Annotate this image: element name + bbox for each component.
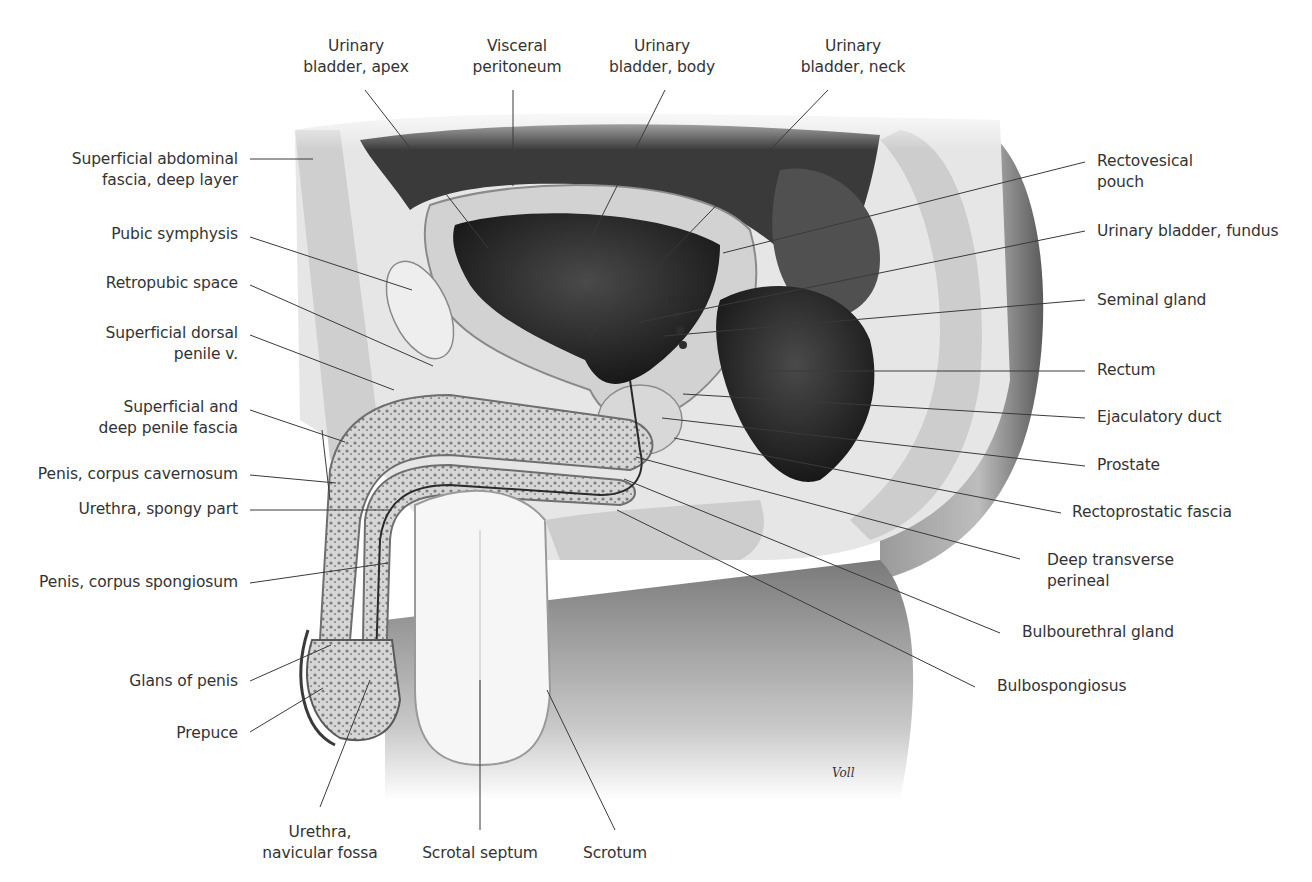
label-line: Urinary bladder, fundus xyxy=(1097,221,1278,242)
label-line: Penis, corpus cavernosum xyxy=(0,464,238,485)
label-line: perineal xyxy=(1047,571,1174,592)
label-line: Superficial and xyxy=(0,397,238,418)
label-bladder-neck: Urinary bladder, neck xyxy=(783,36,923,78)
label-line: Urethra, xyxy=(245,822,395,843)
label-urethra-spongy: Urethra, spongy part xyxy=(0,499,238,520)
label-line: bladder, body xyxy=(592,57,732,78)
label-bladder-body: Urinary bladder, body xyxy=(592,36,732,78)
label-corpus-spongiosum: Penis, corpus spongiosum xyxy=(0,572,238,593)
label-prepuce: Prepuce xyxy=(0,723,238,744)
label-retropubic-space: Retropubic space xyxy=(0,273,238,294)
label-line: bladder, neck xyxy=(783,57,923,78)
label-seminal-gland: Seminal gland xyxy=(1097,290,1206,311)
label-prostate: Prostate xyxy=(1097,455,1160,476)
label-line: Prostate xyxy=(1097,455,1160,476)
label-line: Superficial abdominal xyxy=(0,149,238,170)
label-line: Rectum xyxy=(1097,360,1156,381)
label-visceral-peritoneum: Visceral peritoneum xyxy=(452,36,582,78)
label-line: Pubic symphysis xyxy=(0,224,238,245)
label-line: Ejaculatory duct xyxy=(1097,407,1221,428)
label-line: fascia, deep layer xyxy=(0,170,238,191)
label-line: Scrotum xyxy=(575,843,655,864)
artist-signature: Voll xyxy=(832,766,854,780)
label-line: Urinary xyxy=(783,36,923,57)
label-line: bladder, apex xyxy=(286,57,426,78)
label-line: Rectoprostatic fascia xyxy=(1072,502,1232,523)
label-rectovesical-pouch: Rectovesical pouch xyxy=(1097,151,1193,193)
label-bulbospongiosus: Bulbospongiosus xyxy=(997,676,1126,697)
label-line: deep penile fascia xyxy=(0,418,238,439)
label-line: Penis, corpus spongiosum xyxy=(0,572,238,593)
label-ejaculatory-duct: Ejaculatory duct xyxy=(1097,407,1221,428)
label-scrotum: Scrotum xyxy=(575,843,655,864)
label-line: navicular fossa xyxy=(245,843,395,864)
pelvis-illustration xyxy=(0,0,1312,882)
label-sup-dorsal-penile-v: Superficial dorsal penile v. xyxy=(0,323,238,365)
label-line: Seminal gland xyxy=(1097,290,1206,311)
label-line: Superficial dorsal xyxy=(0,323,238,344)
label-line: peritoneum xyxy=(452,57,582,78)
label-glans: Glans of penis xyxy=(0,671,238,692)
label-bulbourethral-gland: Bulbourethral gland xyxy=(1022,622,1174,643)
label-sup-deep-penile-fascia: Superficial and deep penile fascia xyxy=(0,397,238,439)
label-line: penile v. xyxy=(0,344,238,365)
label-bladder-fundus: Urinary bladder, fundus xyxy=(1097,221,1278,242)
label-line: Deep transverse xyxy=(1047,550,1174,571)
label-line: Bulbourethral gland xyxy=(1022,622,1174,643)
label-deep-transverse-perineal: Deep transverse perineal xyxy=(1047,550,1174,592)
label-rectoprostatic-fascia: Rectoprostatic fascia xyxy=(1072,502,1232,523)
label-line: Urethra, spongy part xyxy=(0,499,238,520)
label-line: Urinary xyxy=(592,36,732,57)
anatomy-figure: Urinary bladder, apex Visceral peritoneu… xyxy=(0,0,1312,882)
label-line: Prepuce xyxy=(0,723,238,744)
label-line: Visceral xyxy=(452,36,582,57)
label-bladder-apex: Urinary bladder, apex xyxy=(286,36,426,78)
label-line: Rectovesical xyxy=(1097,151,1193,172)
label-scrotal-septum: Scrotal septum xyxy=(410,843,550,864)
label-rectum: Rectum xyxy=(1097,360,1156,381)
label-corpus-cavernosum: Penis, corpus cavernosum xyxy=(0,464,238,485)
label-line: Glans of penis xyxy=(0,671,238,692)
label-sup-abd-fascia: Superficial abdominal fascia, deep layer xyxy=(0,149,238,191)
label-line: pouch xyxy=(1097,172,1193,193)
label-line: Retropubic space xyxy=(0,273,238,294)
label-line: Bulbospongiosus xyxy=(997,676,1126,697)
label-pubic-symphysis: Pubic symphysis xyxy=(0,224,238,245)
label-line: Urinary xyxy=(286,36,426,57)
label-navicular-fossa: Urethra, navicular fossa xyxy=(245,822,395,864)
label-line: Scrotal septum xyxy=(410,843,550,864)
